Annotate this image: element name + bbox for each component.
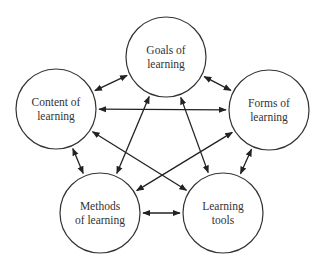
node-circle [229,70,309,150]
node-label: Learning [202,200,244,213]
arrow-content-methods [73,149,83,174]
node-tools: Learningtools [183,173,263,253]
node-label: learning [250,111,288,124]
node-methods: Methodsof learning [60,173,140,253]
node-label: tools [212,214,235,226]
node-label: learning [37,110,75,123]
learning-components-diagram: Goals oflearningContent oflearningForms … [0,0,323,266]
node-goals: Goals oflearning [126,17,206,97]
arrow-goals-forms [204,77,231,91]
arrow-goals-content [95,75,127,90]
node-label: Forms of [248,97,290,109]
node-label: Goals of [146,44,185,56]
node-content: Content oflearning [16,69,96,149]
arrow-forms-tools [241,149,252,173]
node-label: learning [147,58,185,71]
node-circle [183,173,263,253]
node-circle [126,17,206,97]
nodes-layer: Goals oflearningContent oflearningForms … [16,17,309,253]
arrow-content-forms [99,109,226,110]
node-label: Content of [32,96,81,108]
node-circle [60,173,140,253]
arrow-goals-methods [117,97,149,174]
node-label: of learning [75,214,125,227]
node-forms: Forms oflearning [229,70,309,150]
node-label: Methods [80,200,121,212]
node-circle [16,69,96,149]
